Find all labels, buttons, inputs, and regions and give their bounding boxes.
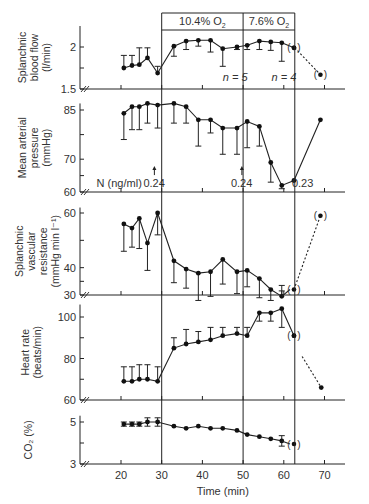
panel-heart-rate: 6080100Heart rate(beats/min)() bbox=[19, 305, 345, 406]
data-point bbox=[121, 111, 126, 116]
svg-text:(: ( bbox=[287, 42, 291, 53]
y-axis-label: Splanchnic bbox=[13, 226, 25, 277]
data-point bbox=[137, 377, 142, 382]
data-point bbox=[235, 269, 240, 274]
data-point bbox=[257, 124, 262, 129]
data-point bbox=[137, 62, 142, 67]
data-point bbox=[245, 432, 250, 437]
y-tick-label: 80 bbox=[64, 353, 76, 365]
data-point bbox=[155, 379, 160, 384]
data-point bbox=[137, 422, 142, 427]
data-point bbox=[155, 211, 160, 216]
x-tick-label: 20 bbox=[115, 469, 127, 481]
data-point bbox=[220, 333, 225, 338]
data-point bbox=[145, 420, 150, 425]
data-point bbox=[268, 40, 273, 45]
data-point bbox=[318, 117, 323, 122]
y-tick-label: 60 bbox=[64, 394, 76, 406]
y-tick-label: 100 bbox=[58, 311, 76, 323]
data-point bbox=[184, 267, 189, 272]
data-point bbox=[137, 216, 142, 221]
data-point bbox=[235, 126, 240, 131]
data-point bbox=[257, 434, 262, 439]
data-point bbox=[257, 39, 262, 44]
x-axis-label: Time (min) bbox=[197, 485, 249, 497]
arrow-up-icon bbox=[152, 166, 156, 170]
data-point bbox=[184, 426, 189, 431]
y-axis-label: (l/min) bbox=[40, 43, 52, 72]
sample-size-label: n = 4 bbox=[272, 71, 297, 83]
data-point bbox=[172, 44, 177, 49]
panel-mean-arterial-pressure: 607085Mean arterialpressure(mmHg)N (ng/m… bbox=[16, 101, 345, 198]
svg-text:): ) bbox=[297, 439, 300, 450]
phase-label: 10.4% O2 bbox=[179, 15, 226, 29]
y-axis-label: pressure bbox=[28, 127, 40, 168]
data-point bbox=[196, 117, 201, 122]
data-point bbox=[145, 101, 150, 106]
y-axis-label: vascular bbox=[25, 231, 37, 271]
data-point bbox=[121, 379, 126, 384]
phase-label: 7.6% O2 bbox=[249, 15, 290, 29]
y-axis-label: Heart rate bbox=[19, 329, 31, 376]
data-point bbox=[172, 346, 177, 351]
data-point bbox=[130, 104, 135, 109]
data-point bbox=[130, 63, 135, 68]
data-line bbox=[124, 309, 294, 382]
data-point bbox=[172, 258, 177, 263]
data-point bbox=[196, 424, 201, 429]
dose-annotation: N (ng/ml) bbox=[97, 177, 142, 189]
data-point bbox=[257, 276, 262, 281]
y-axis-label: (mmHg) bbox=[40, 129, 52, 167]
data-point bbox=[145, 241, 150, 246]
data-point bbox=[279, 183, 284, 188]
panel-co2: 35CO₂ (%)() bbox=[22, 416, 345, 470]
data-point bbox=[208, 426, 213, 431]
data-point bbox=[245, 119, 250, 124]
bracket-marker: ( bbox=[314, 210, 318, 221]
svg-text:): ) bbox=[324, 69, 327, 80]
svg-text:): ) bbox=[297, 284, 300, 295]
data-point bbox=[268, 287, 273, 292]
x-tick-label: 50 bbox=[237, 469, 249, 481]
y-axis-label: (mmHg min l⁻¹) bbox=[49, 215, 61, 288]
data-point bbox=[130, 422, 135, 427]
data-point bbox=[184, 342, 189, 347]
data-point bbox=[220, 126, 225, 131]
y-axis-label: resistance bbox=[37, 227, 49, 275]
data-point bbox=[121, 422, 126, 427]
data-point bbox=[145, 377, 150, 382]
dose-annotation: 0.24 bbox=[231, 177, 252, 189]
bracket-marker: ( bbox=[287, 330, 291, 341]
data-point bbox=[208, 117, 213, 122]
data-point bbox=[184, 104, 189, 109]
data-point bbox=[220, 426, 225, 431]
data-point bbox=[245, 333, 250, 338]
data-point bbox=[268, 436, 273, 441]
y-tick-label: 3 bbox=[70, 458, 76, 470]
data-point bbox=[196, 271, 201, 276]
data-point bbox=[145, 56, 150, 61]
data-point bbox=[137, 104, 142, 109]
data-point bbox=[279, 40, 284, 45]
data-point bbox=[196, 38, 201, 43]
data-point bbox=[208, 337, 213, 342]
x-tick-label: 60 bbox=[278, 469, 290, 481]
data-point bbox=[257, 310, 262, 315]
physiology-chart: 1.52Splanchnicblood flow(l/min)()()n = 5… bbox=[0, 0, 369, 504]
y-tick-label: 5 bbox=[70, 416, 76, 428]
data-point bbox=[245, 43, 250, 48]
y-tick-label: 60 bbox=[64, 186, 76, 198]
y-axis-label: CO₂ (%) bbox=[22, 420, 34, 459]
data-point bbox=[155, 103, 160, 108]
x-tick-label: 30 bbox=[156, 469, 168, 481]
data-point bbox=[268, 160, 273, 165]
data-point bbox=[130, 379, 135, 384]
data-point bbox=[172, 101, 177, 106]
x-tick-label: 40 bbox=[196, 469, 208, 481]
data-point bbox=[279, 306, 284, 311]
svg-text:): ) bbox=[324, 210, 327, 221]
data-point bbox=[268, 310, 273, 315]
data-point bbox=[121, 222, 126, 227]
data-point bbox=[155, 71, 160, 76]
y-tick-label: 70 bbox=[64, 153, 76, 165]
